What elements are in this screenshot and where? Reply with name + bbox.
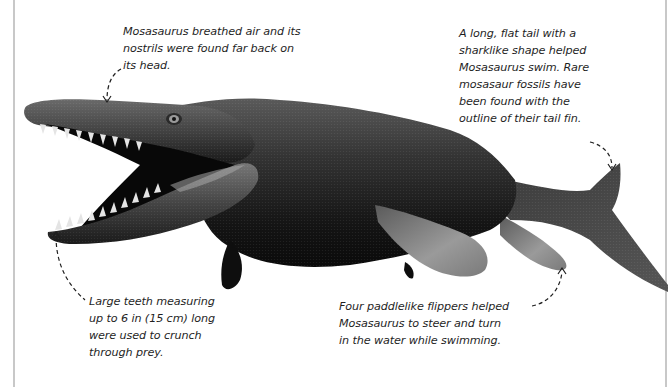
annotation-line: Four paddlelike flippers helped [339, 298, 509, 315]
annotation-tail: A long, flat tail with a sharklike shape… [459, 25, 589, 127]
annotation-line: Large teeth measuring [89, 293, 215, 310]
annotation-line: nostrils were found far back on [123, 40, 300, 57]
annotation-line: up to 6 in (15 cm) long [89, 310, 215, 327]
annotation-line: its head. [123, 57, 300, 74]
annotation-nostrils: Mosasaurus breathed air and its nostrils… [123, 23, 300, 74]
annotation-flippers: Four paddlelike flippers helped Mosasaur… [339, 298, 509, 349]
annotation-line: been found with the [459, 93, 589, 110]
page: Mosasaurus breathed air and its nostrils… [0, 0, 670, 387]
annotation-line: in the water while swimming. [339, 332, 509, 349]
annotation-line: were used to crunch [89, 327, 215, 344]
pointer-teeth [56, 236, 85, 300]
annotation-line: outline of their tail fin. [459, 110, 589, 127]
pelvic-fin [404, 262, 414, 279]
annotation-line: Mosasaurus to steer and turn [339, 315, 509, 332]
annotation-line: sharklike shape helped [459, 42, 589, 59]
pointer-flippers [532, 272, 562, 306]
annotation-line: mosasaur fossils have [459, 76, 589, 93]
annotation-line: Mosasaurus swim. Rare [459, 59, 589, 76]
annotation-line: through prey. [89, 344, 215, 361]
annotation-line: Mosasaurus breathed air and its [123, 23, 300, 40]
pointer-nostrils [107, 69, 121, 100]
annotation-teeth: Large teeth measuring up to 6 in (15 cm)… [89, 293, 215, 361]
eye [166, 113, 182, 125]
annotation-line: A long, flat tail with a [459, 25, 589, 42]
